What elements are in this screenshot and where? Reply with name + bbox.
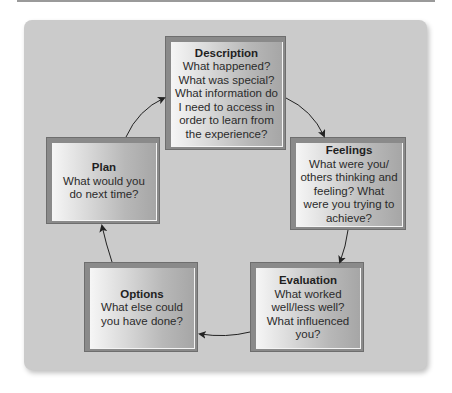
stage-feelings-box: Feelings What were you/ others thinking … (290, 137, 406, 230)
stage-description-box: Description What happened? What was spec… (165, 36, 286, 150)
stage-plan-title: Plan (92, 161, 116, 175)
top-rule (17, 0, 435, 2)
stage-evaluation-title: Evaluation (279, 274, 337, 288)
stage-options-title: Options (120, 288, 163, 302)
stage-options-body: What else could you have done? (98, 301, 186, 328)
stage-description-body: What happened? What was special? What in… (175, 60, 278, 141)
stage-evaluation-body: What worked well/less well? What influen… (264, 288, 352, 342)
stage-feelings-body: What were you/ others thinking and feeli… (300, 158, 398, 226)
stage-evaluation-box: Evaluation What worked well/less well? W… (250, 262, 364, 352)
stage-feelings-title: Feelings (326, 144, 373, 158)
stage-plan-body: What would you do next time? (60, 175, 148, 202)
stage-plan-box: Plan What would you do next time? (46, 137, 160, 224)
stage-options-box: Options What else could you have done? (84, 262, 198, 352)
stage-description-title: Description (195, 47, 258, 61)
